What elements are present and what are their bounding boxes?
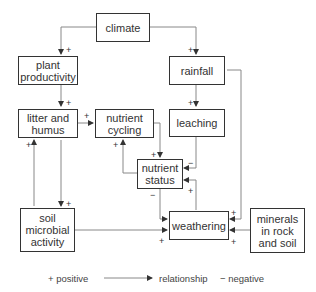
sign-plus: + bbox=[84, 112, 89, 121]
node-label: nutrient cycling bbox=[102, 112, 148, 136]
node-label: weathering bbox=[172, 220, 226, 232]
node-label: minerals in rock and soil bbox=[254, 213, 302, 249]
sign-plus: + bbox=[113, 141, 118, 150]
node-label: leaching bbox=[177, 117, 218, 129]
node-nutrient-cycling: nutrient cycling bbox=[95, 109, 154, 138]
sign-plus: + bbox=[159, 237, 164, 246]
sign-plus: + bbox=[66, 99, 71, 108]
node-label: rainfall bbox=[181, 65, 213, 77]
sign-plus: + bbox=[188, 99, 193, 108]
sign-plus: + bbox=[231, 238, 236, 247]
node-soil-microbial: soil microbial activity bbox=[20, 208, 75, 252]
sign-plus: + bbox=[66, 46, 71, 55]
sign-plus: + bbox=[188, 187, 193, 196]
sign-plus: + bbox=[66, 200, 71, 209]
node-nutrient-status: nutrient status bbox=[137, 159, 183, 189]
node-minerals: minerals in rock and soil bbox=[250, 208, 305, 253]
node-rainfall: rainfall bbox=[169, 56, 225, 85]
node-label: climate bbox=[106, 22, 141, 34]
legend-positive: + positive bbox=[48, 273, 88, 284]
legend-relationship: relationship bbox=[159, 273, 208, 284]
sign-plus: + bbox=[151, 151, 156, 160]
sign-minus: − bbox=[150, 191, 155, 200]
node-weathering: weathering bbox=[169, 211, 229, 240]
sign-minus: − bbox=[188, 159, 193, 168]
node-plant-productivity: plant productivity bbox=[18, 56, 78, 85]
node-label: litter and humus bbox=[24, 112, 72, 136]
node-label: nutrient status bbox=[139, 162, 181, 186]
sign-plus: + bbox=[188, 46, 193, 55]
sign-plus: + bbox=[231, 209, 236, 218]
node-litter-humus: litter and humus bbox=[18, 109, 78, 138]
legend-negative: − negative bbox=[220, 273, 264, 284]
sign-plus: + bbox=[26, 141, 31, 150]
node-climate: climate bbox=[96, 13, 150, 42]
node-label: soil microbial activity bbox=[23, 212, 73, 248]
node-label: plant productivity bbox=[19, 59, 77, 83]
node-leaching: leaching bbox=[169, 109, 225, 137]
